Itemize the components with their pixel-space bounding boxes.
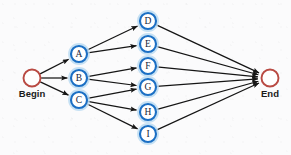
edge-c-to-g xyxy=(87,89,136,98)
node-b[interactable]: B xyxy=(69,68,88,87)
edge-i-to-end xyxy=(156,83,259,130)
node-i[interactable]: I xyxy=(138,124,157,143)
network-diagram: ABCDEFGHIBeginEnd xyxy=(0,0,291,155)
edge-begin-to-a xyxy=(40,59,69,74)
edge-c-to-h xyxy=(87,101,136,110)
node-label: G xyxy=(145,82,152,92)
node-c[interactable]: C xyxy=(69,90,88,109)
edge-f-to-end xyxy=(157,67,258,77)
edge-c-to-i xyxy=(87,104,138,129)
node-d[interactable]: D xyxy=(138,11,157,30)
node-label: B xyxy=(76,73,82,83)
node-g[interactable]: G xyxy=(138,77,157,96)
end-node-label: End xyxy=(261,88,279,99)
edge-d-to-end xyxy=(156,25,259,73)
node-label: E xyxy=(145,39,151,49)
diagram-canvas: ABCDEFGHIBeginEnd xyxy=(0,0,291,155)
edge-e-to-end xyxy=(156,46,258,74)
node-a[interactable]: A xyxy=(69,44,88,63)
node-label: F xyxy=(145,61,150,71)
edge-b-to-f xyxy=(87,68,136,77)
node-e[interactable]: E xyxy=(138,34,157,53)
begin-node-circle xyxy=(24,70,41,87)
node-label: C xyxy=(76,95,82,105)
node-f[interactable]: F xyxy=(138,56,157,75)
node-label: D xyxy=(145,16,152,26)
node-label: A xyxy=(76,49,83,59)
node-label: H xyxy=(145,107,152,117)
node-label: I xyxy=(146,129,149,139)
edge-b-to-g xyxy=(88,79,137,85)
end-node-circle xyxy=(262,70,279,87)
end-node[interactable]: End xyxy=(261,70,279,99)
node-h[interactable]: H xyxy=(138,102,157,121)
begin-node-label: Begin xyxy=(19,88,46,99)
